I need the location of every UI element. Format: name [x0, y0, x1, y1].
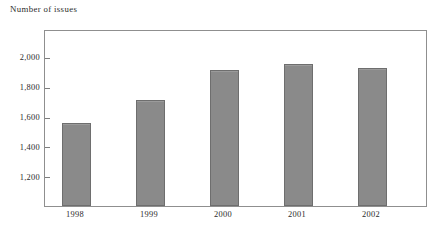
bar-2002: [358, 68, 387, 206]
x-tick-label-2002: 2002: [341, 210, 401, 219]
x-tick-label-2001: 2001: [267, 210, 327, 219]
bar-2001: [284, 64, 313, 206]
y-tick-mark-1800: [45, 88, 50, 89]
chart-title: Number of issues: [10, 4, 77, 14]
bar-chart: Number of issues 2,000 1,800 1,600 1,400…: [0, 0, 441, 236]
y-tick-label-1800: 1,800: [10, 83, 40, 92]
y-tick-label-1600: 1,600: [10, 113, 40, 122]
bar-1998: [62, 123, 91, 206]
y-tick-mark-1200: [45, 177, 50, 178]
y-tick-mark-2000: [45, 58, 50, 59]
bar-2000: [210, 70, 239, 206]
x-tick-label-1999: 1999: [119, 210, 179, 219]
bar-1999: [136, 100, 165, 206]
plot-area: [44, 30, 427, 207]
y-tick-label-1200: 1,200: [10, 173, 40, 182]
x-tick-label-1998: 1998: [45, 210, 105, 219]
y-tick-label-2000: 2,000: [10, 53, 40, 62]
y-tick-mark-1600: [45, 118, 50, 119]
x-tick-label-2000: 2000: [193, 210, 253, 219]
y-tick-mark-1400: [45, 147, 50, 148]
y-tick-label-1400: 1,400: [10, 143, 40, 152]
